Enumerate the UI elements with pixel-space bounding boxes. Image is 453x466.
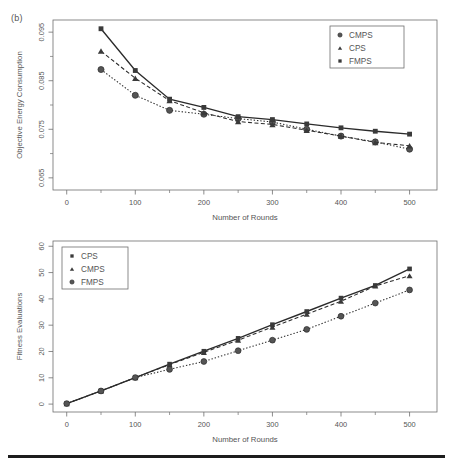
legend-item-fmps: FMPS	[81, 278, 104, 287]
marker-square	[304, 122, 309, 127]
y-tick-label: 0.085	[37, 71, 46, 90]
y-tick-label: 10	[37, 374, 46, 382]
legend-item-fmps: FMPS	[349, 57, 372, 66]
x-tick-label: 400	[335, 198, 347, 207]
marker-circle	[270, 337, 276, 343]
series-line-cmps	[101, 70, 410, 150]
y-tick-label: 0.065	[37, 169, 46, 188]
marker-circle	[338, 313, 344, 319]
marker-square	[339, 125, 344, 130]
marker-square	[407, 267, 412, 272]
marker-circle	[338, 33, 342, 37]
marker-triangle	[98, 48, 104, 53]
x-tick-label: 300	[266, 198, 278, 207]
marker-circle	[70, 280, 74, 284]
x-tick-label: 200	[198, 420, 210, 429]
marker-square	[133, 68, 138, 73]
y-tick-label: 0.095	[37, 23, 46, 42]
legend-item-cmps: CMPS	[349, 31, 373, 40]
x-tick-label: 100	[129, 420, 141, 429]
x-tick-label: 200	[198, 198, 210, 207]
y-tick-label: 30	[37, 321, 46, 329]
marker-circle	[304, 326, 310, 332]
x-tick-label: 500	[403, 420, 415, 429]
marker-square	[99, 26, 104, 31]
x-tick-label: 0	[65, 198, 69, 207]
y-tick-label: 20	[37, 347, 46, 355]
x-axis-title: Number of Rounds	[212, 435, 278, 444]
marker-circle	[167, 366, 173, 372]
x-tick-label: 300	[266, 420, 278, 429]
marker-circle	[64, 401, 70, 407]
marker-triangle	[407, 273, 413, 278]
x-tick-label: 500	[403, 198, 415, 207]
y-tick-label: 60	[37, 242, 46, 250]
marker-circle	[98, 388, 104, 394]
marker-square	[201, 105, 206, 110]
y-axis-title: Fitness Evaluations	[15, 293, 24, 361]
marker-circle	[132, 375, 138, 381]
chart-fitness-evaluations: 01002003004005000102030405060Number of R…	[0, 230, 453, 466]
marker-circle	[167, 107, 173, 113]
figure-panel-b: (b) 01002003004005000.0650.0750.0850.095…	[0, 0, 453, 466]
chart-objective-energy-consumption: 01002003004005000.0650.0750.0850.095Numb…	[0, 0, 453, 230]
marker-circle	[407, 287, 413, 293]
series-line-fmps	[67, 290, 410, 404]
marker-square	[70, 254, 73, 257]
marker-circle	[98, 66, 104, 72]
x-tick-label: 100	[129, 198, 141, 207]
marker-square	[236, 114, 241, 119]
marker-square	[407, 132, 412, 137]
y-axis-title: Objective Energy Consumption	[15, 51, 24, 158]
y-tick-label: 0.075	[37, 120, 46, 139]
y-tick-label: 50	[37, 268, 46, 276]
marker-circle	[201, 359, 207, 365]
marker-circle	[235, 348, 241, 354]
legend-item-cps: CPS	[349, 44, 366, 53]
x-tick-label: 0	[65, 420, 69, 429]
marker-square	[270, 117, 275, 122]
legend-item-cps: CPS	[81, 252, 98, 261]
y-tick-label: 40	[37, 295, 46, 303]
marker-square	[167, 97, 172, 102]
legend-item-cmps: CMPS	[81, 265, 105, 274]
x-axis-title: Number of Rounds	[212, 213, 278, 222]
marker-circle	[132, 92, 138, 98]
marker-circle	[372, 300, 378, 306]
x-tick-label: 400	[335, 420, 347, 429]
marker-square	[338, 59, 341, 62]
y-tick-label: 0	[37, 402, 46, 406]
marker-square	[373, 129, 378, 134]
figure-bottom-rule	[8, 455, 445, 458]
